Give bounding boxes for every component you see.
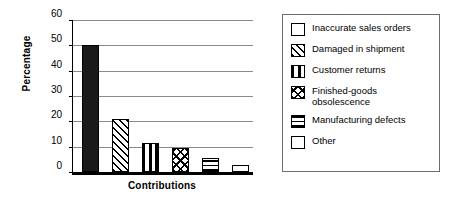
y-axis-label: Percentage [21, 19, 32, 109]
legend-item-label: Damaged in shipment [312, 43, 404, 54]
legend-item: Customer returns [291, 64, 433, 78]
legend-swatch-horizontal [291, 115, 305, 128]
bar [142, 143, 159, 172]
bar-series [73, 20, 253, 172]
y-tick-label: 50 [34, 34, 62, 44]
bar [112, 119, 129, 172]
y-tick-label: 10 [34, 136, 62, 146]
legend-swatch-vertical [291, 65, 305, 78]
bar-chart: Percentage 60 50 40 30 20 10 0 [0, 0, 270, 204]
x-axis-label: Contributions [72, 180, 252, 191]
y-tick-label: 60 [34, 9, 62, 19]
chart-legend: Inaccurate sales ordersDamaged in shipme… [282, 14, 440, 172]
legend-item: Finished-goods obsolescence [291, 85, 433, 107]
y-tick-mark [69, 172, 73, 173]
legend-swatch-solid [291, 23, 305, 36]
y-tick-label: 0 [34, 161, 62, 171]
y-tick-label: 30 [34, 85, 62, 95]
legend-item: Manufacturing defects [291, 114, 433, 128]
bar [232, 165, 249, 172]
legend-item: Damaged in shipment [291, 43, 433, 57]
legend-item-label: Finished-goods obsolescence [312, 85, 377, 107]
y-axis-tick-labels: 60 50 40 30 20 10 0 [34, 14, 62, 174]
legend-swatch-cross [291, 86, 305, 99]
figure: Percentage 60 50 40 30 20 10 0 [0, 0, 458, 204]
legend-swatch-empty [291, 136, 305, 149]
bar [202, 158, 219, 172]
legend-item: Inaccurate sales orders [291, 22, 433, 36]
y-tick-label: 40 [34, 60, 62, 70]
legend-item-label: Other [312, 135, 336, 146]
legend-item: Other [291, 135, 433, 149]
bar [82, 45, 99, 172]
y-tick-label: 20 [34, 110, 62, 120]
legend-item-label: Customer returns [312, 64, 385, 75]
legend-item-label: Inaccurate sales orders [312, 22, 411, 33]
legend-swatch-diagonal [291, 44, 305, 57]
legend-item-label: Manufacturing defects [312, 114, 405, 125]
bar [172, 148, 189, 172]
plot-area [72, 20, 253, 175]
